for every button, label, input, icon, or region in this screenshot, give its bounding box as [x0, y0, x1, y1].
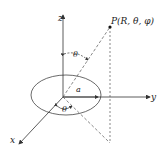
loop-diagram: z y x P(R, θ, φ) θ a θ [0, 0, 161, 154]
z-axis-label: z [57, 13, 63, 23]
point-P-label: P(R, θ, φ) [110, 16, 155, 26]
y-axis-label: y [150, 92, 157, 102]
radius-label: a [76, 85, 81, 94]
radial-line-to-P [63, 27, 110, 97]
x-axis [19, 97, 63, 144]
polar-angle-label: θ [73, 50, 78, 59]
projection-horizontal [63, 97, 110, 143]
azimuth-angle-label: θ [62, 105, 67, 114]
x-axis-label: x [10, 135, 15, 145]
